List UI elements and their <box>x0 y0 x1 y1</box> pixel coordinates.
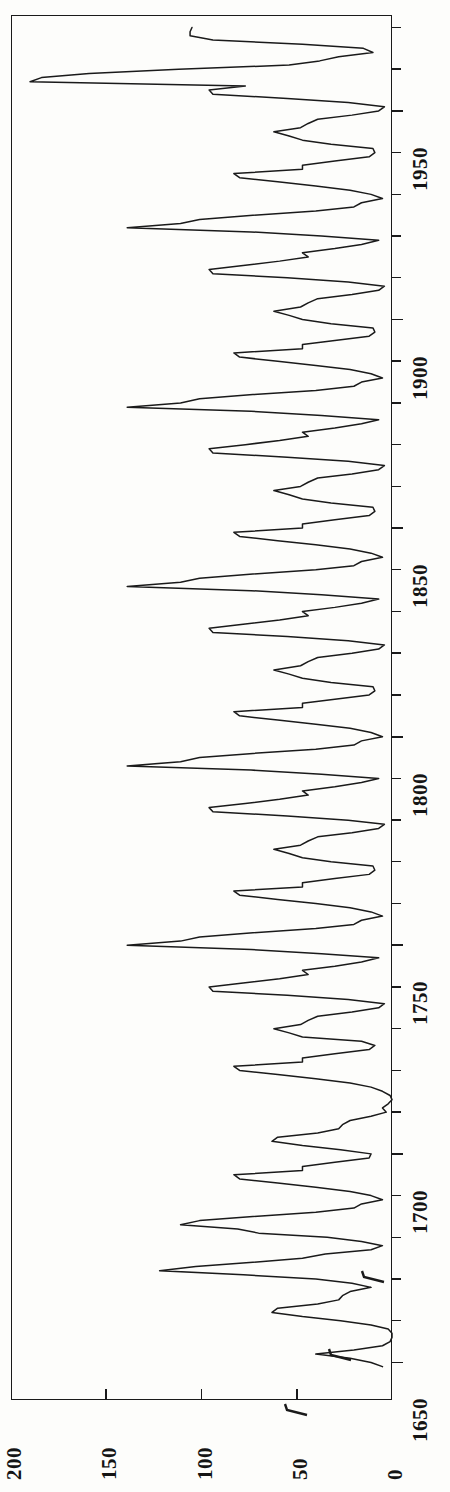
year-tick-1880 <box>392 402 401 403</box>
stray-mark-1 <box>362 1271 384 1282</box>
year-tick-1960 <box>392 68 401 69</box>
year-label-1800: 1800 <box>408 737 433 817</box>
year-label-1650: 1650 <box>408 1362 433 1442</box>
year-label-1750: 1750 <box>408 945 433 1025</box>
stray-mark-3 <box>285 1404 307 1415</box>
year-label-1900: 1900 <box>408 320 433 400</box>
year-tick-1950 <box>392 110 403 112</box>
year-tick-1910 <box>392 277 401 278</box>
value-label-200: 200 <box>2 1416 27 1480</box>
year-tick-1760 <box>392 903 401 904</box>
value-tick-150 <box>105 1389 107 1400</box>
value-label-150: 150 <box>97 1416 122 1480</box>
year-tick-1740 <box>392 986 401 987</box>
year-tick-1650 <box>392 1362 403 1364</box>
year-tick-1790 <box>392 778 401 779</box>
year-tick-1890 <box>392 360 401 361</box>
year-tick-1970 <box>392 27 401 28</box>
year-tick-1670 <box>392 1278 401 1279</box>
artifact-layer <box>285 1271 384 1415</box>
value-label-0: 0 <box>383 1416 408 1480</box>
year-tick-1920 <box>392 235 401 236</box>
year-tick-1800 <box>392 736 403 738</box>
year-tick-1810 <box>392 694 401 695</box>
year-tick-1680 <box>392 1237 401 1238</box>
year-tick-1850 <box>392 527 403 529</box>
year-tick-1860 <box>392 486 401 487</box>
value-label-50: 50 <box>288 1416 313 1480</box>
year-tick-1750 <box>392 944 403 946</box>
year-tick-1770 <box>392 861 401 862</box>
year-tick-1700 <box>392 1153 403 1155</box>
sunspot-series-line <box>30 28 392 1367</box>
year-tick-1840 <box>392 569 401 570</box>
year-tick-1780 <box>392 819 401 820</box>
year-tick-1720 <box>392 1070 401 1071</box>
year-tick-1940 <box>392 152 401 153</box>
year-tick-1730 <box>392 1028 401 1029</box>
year-tick-1830 <box>392 611 401 612</box>
value-label-100: 100 <box>193 1416 218 1480</box>
year-tick-1870 <box>392 444 401 445</box>
year-tick-1820 <box>392 652 401 653</box>
year-label-1950: 1950 <box>408 111 433 191</box>
year-tick-1930 <box>392 194 401 195</box>
value-tick-100 <box>201 1389 203 1400</box>
year-tick-1690 <box>392 1195 401 1196</box>
series-layer <box>0 0 450 1492</box>
year-tick-1710 <box>392 1111 401 1112</box>
sunspot-figure: 200150100500 195019001850180017501700165… <box>0 0 450 1492</box>
year-label-1850: 1850 <box>408 528 433 608</box>
year-tick-1900 <box>392 319 403 321</box>
year-label-1700: 1700 <box>408 1154 433 1234</box>
year-tick-1660 <box>392 1320 401 1321</box>
value-tick-50 <box>296 1389 298 1400</box>
